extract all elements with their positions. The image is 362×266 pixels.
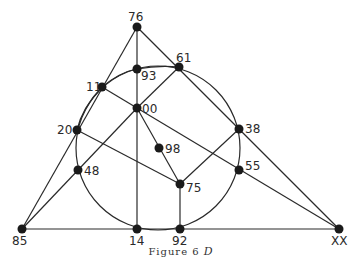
label-75: 75 [186,181,201,195]
line-38-75 [180,129,239,184]
label-38: 38 [245,122,260,136]
line-11-00 [102,87,137,108]
label-20: 20 [57,123,72,137]
caption-letter: D [204,245,214,258]
label-11: 11 [86,80,101,94]
point-00 [133,104,142,113]
point-14 [133,225,142,234]
point-20 [73,126,82,135]
label-48: 48 [84,164,99,178]
label-93: 93 [141,69,156,83]
label-00: 00 [142,102,157,116]
label-61: 61 [176,51,191,65]
point-75 [176,180,185,189]
figure-caption: Figure 6 D [0,245,362,258]
label-76: 76 [128,10,143,24]
point-98 [155,144,164,153]
figure-diagram: 76 93 61 11 00 20 38 98 48 55 75 85 14 9… [0,0,362,266]
caption-prefix: Figure 6 [148,246,199,257]
point-55 [235,166,244,175]
point-85 [18,225,27,234]
label-55: 55 [245,159,260,173]
point-92 [176,225,185,234]
point-xx [335,225,344,234]
point-48 [74,166,83,175]
point-38 [235,125,244,134]
label-98: 98 [165,142,180,156]
